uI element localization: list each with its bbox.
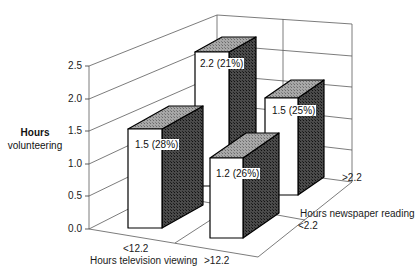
y-tick-2.0: 2.0: [52, 94, 82, 104]
bar-label-tv-high-news-high: 1.5 (25%): [271, 105, 316, 116]
bar-label-tv-low-news-high: 2.2 (21%): [199, 58, 244, 69]
y-axis-title-line2: volunteering: [5, 139, 65, 152]
x-category-low: <12.2: [123, 243, 148, 254]
z-category-low: <2.2: [298, 220, 318, 231]
bar-label-tv-low-news-low: 1.5 (28%): [134, 139, 179, 150]
z-category-high: >2.2: [342, 172, 362, 183]
y-tick-1.0: 1.0: [52, 159, 82, 169]
y-tick-0.0: 0.0: [52, 224, 82, 234]
y-tick-2.5: 2.5: [52, 61, 82, 71]
y-axis-title: Hours volunteering: [5, 126, 65, 152]
y-axis-ticks: [85, 66, 89, 229]
x-axis-title: Hours television viewing: [90, 255, 197, 266]
bar-label-tv-high-news-low: 1.2 (26%): [215, 168, 260, 179]
x-category-high: >12.2: [204, 255, 229, 266]
y-tick-0.5: 0.5: [52, 191, 82, 201]
y-axis-title-line1: Hours: [5, 126, 65, 139]
z-axis-title: Hours newspaper reading: [300, 208, 415, 219]
bar-tv-low-news-low: [128, 106, 203, 228]
